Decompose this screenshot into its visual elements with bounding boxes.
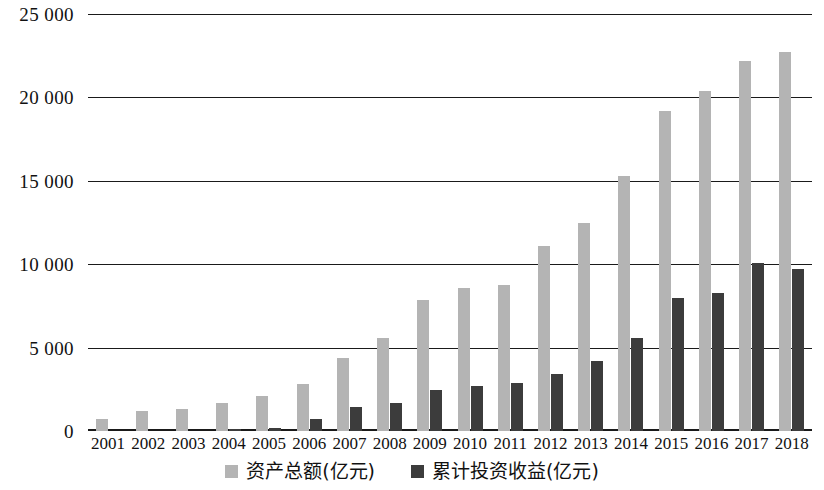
bar-group	[490, 14, 530, 431]
x-axis-tick-label: 2008	[370, 433, 410, 455]
x-axis-tick-label: 2002	[128, 433, 168, 455]
x-axis-tick-label: 2001	[88, 433, 128, 455]
x-axis-tick-label: 2010	[450, 433, 490, 455]
bar-group	[691, 14, 731, 431]
bar-cumulative-investment-income	[551, 374, 563, 431]
bar-group	[611, 14, 651, 431]
bar-group	[88, 14, 128, 431]
bar-cumulative-investment-income	[229, 429, 241, 431]
y-axis-tick-label: 25 000	[0, 5, 74, 24]
bar-asset-total	[739, 61, 751, 431]
x-axis-tick-label: 2015	[651, 433, 691, 455]
x-axis-tick-label: 2006	[289, 433, 329, 455]
bar-group	[772, 14, 812, 431]
legend-entry[interactable]: 资产总额(亿元)	[225, 462, 375, 481]
bar-group	[128, 14, 168, 431]
bar-asset-total	[337, 358, 349, 431]
y-axis-tick-label: 15 000	[0, 171, 74, 190]
bar-cumulative-investment-income	[471, 386, 483, 431]
bar-asset-total	[659, 111, 671, 431]
bar-cumulative-investment-income	[712, 293, 724, 431]
x-axis-tick-label: 2014	[611, 433, 651, 455]
bar-group	[329, 14, 369, 431]
bar-group	[651, 14, 691, 431]
x-axis-tick-label: 2017	[732, 433, 772, 455]
legend-entry[interactable]: 累计投资收益(亿元)	[411, 462, 599, 481]
bar-group	[530, 14, 570, 431]
bar-cumulative-investment-income	[350, 407, 362, 431]
bar-group	[732, 14, 772, 431]
bar-cumulative-investment-income	[511, 383, 523, 431]
x-axis-tick-label: 2003	[168, 433, 208, 455]
bar-cumulative-investment-income	[591, 361, 603, 431]
y-axis-tick-labels: 05 00010 00015 00020 00025 000	[0, 14, 78, 431]
bar-asset-total	[538, 246, 550, 431]
y-axis-tick-label: 20 000	[0, 88, 74, 107]
bar-asset-total	[256, 396, 268, 431]
bar-group	[289, 14, 329, 431]
chart-legend: 资产总额(亿元)累计投资收益(亿元)	[0, 462, 824, 481]
x-axis-tick-label: 2009	[410, 433, 450, 455]
bar-group	[450, 14, 490, 431]
x-axis-tick-label: 2005	[249, 433, 289, 455]
bar-asset-total	[699, 91, 711, 431]
x-axis-tick-label: 2018	[772, 433, 812, 455]
bar-cumulative-investment-income	[269, 428, 281, 431]
x-axis-tick-label: 2004	[209, 433, 249, 455]
y-axis-tick-label: 10 000	[0, 255, 74, 274]
bar-asset-total	[498, 285, 510, 431]
bar-asset-total	[216, 403, 228, 431]
y-axis-tick-label: 5 000	[0, 338, 74, 357]
bar-groups	[88, 14, 812, 431]
bar-group	[370, 14, 410, 431]
bar-asset-total	[136, 411, 148, 431]
bar-cumulative-investment-income	[792, 269, 804, 431]
x-axis-tick-label: 2016	[691, 433, 731, 455]
bar-group	[410, 14, 450, 431]
bar-cumulative-investment-income	[672, 298, 684, 431]
bar-asset-total	[417, 300, 429, 431]
bar-group	[249, 14, 289, 431]
bar-asset-total	[779, 52, 791, 431]
bar-asset-total	[297, 384, 309, 431]
legend-label: 累计投资收益(亿元)	[432, 462, 599, 481]
y-axis-tick-label: 0	[0, 422, 74, 441]
bar-cumulative-investment-income	[310, 419, 322, 431]
bar-group	[209, 14, 249, 431]
x-axis-tick-label: 2007	[329, 433, 369, 455]
bar-asset-total	[96, 419, 108, 431]
bar-group	[168, 14, 208, 431]
legend-label: 资产总额(亿元)	[246, 462, 375, 481]
bar-cumulative-investment-income	[752, 263, 764, 431]
bar-cumulative-investment-income	[430, 390, 442, 431]
bar-asset-total	[618, 176, 630, 431]
bar-cumulative-investment-income	[390, 403, 402, 431]
legend-swatch-investment-income-icon	[411, 465, 424, 478]
x-axis-tick-label: 2011	[490, 433, 530, 455]
bar-group	[571, 14, 611, 431]
bar-asset-total	[377, 338, 389, 431]
x-axis-tick-label: 2012	[530, 433, 570, 455]
bar-cumulative-investment-income	[631, 338, 643, 431]
bar-asset-total	[578, 223, 590, 432]
x-axis-tick-labels: 2001200220032004200520062007200820092010…	[88, 433, 812, 455]
bar-asset-total	[458, 288, 470, 431]
x-axis-tick-label: 2013	[571, 433, 611, 455]
bar-asset-total	[176, 409, 188, 431]
bar-chart: 05 00010 00015 00020 00025 000 200120022…	[0, 0, 824, 490]
legend-swatch-asset-total-icon	[225, 465, 238, 478]
